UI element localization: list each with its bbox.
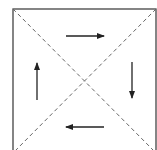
- circulation-diagram: [0, 0, 157, 150]
